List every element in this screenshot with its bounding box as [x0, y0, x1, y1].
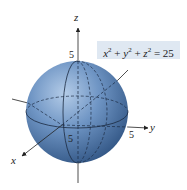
equation-text: x2 + y2 + z2 = 25 [97, 41, 180, 59]
sphere-diagram: z x y 5 5 5 [0, 0, 187, 190]
sphere-figure: z x y 5 5 5 x2 + y2 + z2 = 25 [0, 0, 187, 190]
y-tick-5: 5 [129, 129, 134, 140]
x-tick-5: 5 [68, 133, 73, 144]
y-axis-back [118, 70, 128, 80]
z-tick-5: 5 [69, 49, 74, 60]
x-axis-label: x [10, 154, 16, 166]
x-axis-back [12, 99, 28, 103]
equation-label-box: x2 + y2 + z2 = 25 [97, 41, 180, 59]
y-axis-label: y [149, 121, 155, 133]
y-axis-front [128, 127, 148, 128]
z-axis-label: z [73, 11, 79, 23]
